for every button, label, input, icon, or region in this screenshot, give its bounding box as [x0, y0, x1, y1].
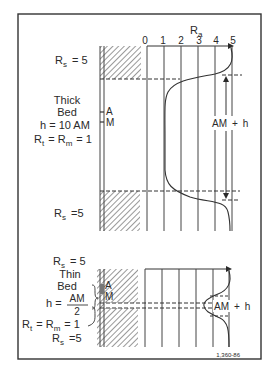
- thin-bed-panel: AM+h A M Rs= 5 Thin Bed h = AM 2 Rt= Rm=…: [22, 255, 250, 347]
- figure-id-label: 1,360-86: [216, 352, 240, 358]
- tick-label: 0: [142, 35, 148, 46]
- thick-title-line2: Bed: [57, 106, 77, 118]
- thin-electrode-span: [100, 284, 104, 294]
- thick-rt-rm-label: Rt= Rm= 1: [34, 133, 92, 148]
- thin-title-line1: Thin: [59, 268, 80, 280]
- thin-rt-rm-label: Rt= Rm= 1: [22, 318, 80, 333]
- thin-thickness-denominator: 2: [74, 306, 80, 317]
- thin-thickness-numerator: AM: [70, 293, 85, 304]
- resistivity-log-diagram: Ra 0 1 2 3 4 5: [0, 0, 272, 375]
- thin-thickness-prefix: h =: [46, 297, 62, 309]
- thick-electrode-a: A: [106, 106, 113, 117]
- lower-brace: [88, 307, 95, 326]
- thin-am-h-label: AM+h: [214, 301, 250, 312]
- thick-upper-rs-label: Rs= 5: [55, 54, 88, 69]
- thick-bed-panel: Ra 0 1 2 3 4 5: [34, 24, 258, 231]
- tick-label: 4: [213, 35, 219, 46]
- tick-label: 3: [196, 35, 202, 46]
- thick-title-line1: Thick: [54, 94, 81, 106]
- thick-thickness-label: h = 10 AM: [40, 119, 90, 131]
- scale-tick-labels: 0 1 2 3 4 5: [142, 35, 236, 46]
- thick-electrode-m: M: [106, 117, 114, 128]
- thin-lower-rs-label: Rs=5: [52, 332, 82, 347]
- upper-shoulder-hatch: [100, 46, 141, 79]
- thin-title-line2: Bed: [57, 280, 77, 292]
- thin-electrode-a: A: [105, 280, 112, 291]
- tick-label: 5: [230, 35, 236, 46]
- thin-bed-layer: [104, 303, 138, 308]
- thick-lower-rs-label: Rs=5: [54, 207, 84, 222]
- lower-shoulder-hatch: [100, 191, 140, 231]
- tick-label: 1: [160, 35, 166, 46]
- thin-electrode-m: M: [105, 291, 113, 302]
- tick-label: 2: [178, 35, 184, 46]
